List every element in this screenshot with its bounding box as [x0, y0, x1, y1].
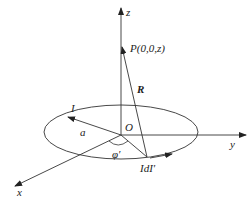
x-axis-label: x	[16, 186, 22, 198]
point-p-label: P(0,0,z)	[129, 42, 165, 55]
current-label: I	[70, 102, 76, 114]
r-vector-label: R	[136, 83, 144, 95]
z-axis-label: z	[125, 6, 131, 18]
radius-label: a	[80, 126, 86, 138]
r-vector	[122, 47, 147, 157]
angle-arc	[109, 141, 128, 145]
y-axis-label: y	[229, 138, 235, 150]
origin-label: O	[125, 121, 133, 133]
current-element-arrow	[150, 154, 172, 158]
current-loop-diagram: z y x P(0,0,z) R I a O φ′ IdI′	[0, 0, 250, 204]
angle-label: φ′	[112, 148, 121, 160]
current-element-label: IdI′	[139, 162, 156, 174]
radius-arrow	[68, 117, 121, 135]
x-axis	[15, 135, 121, 186]
